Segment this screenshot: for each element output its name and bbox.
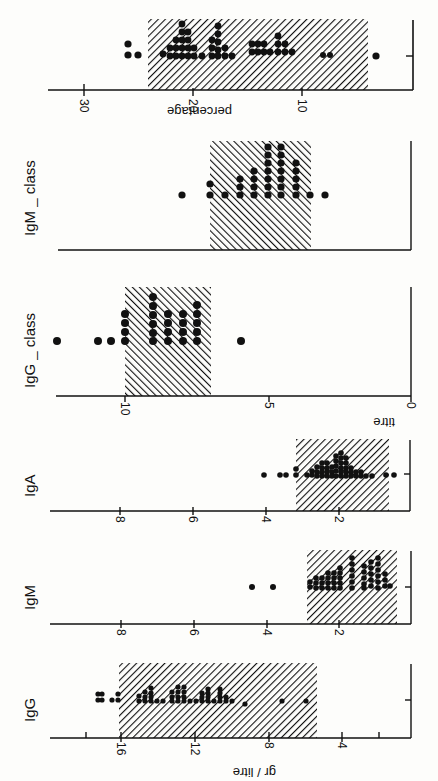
panel-igm: IgM 8 6 4 2	[21, 550, 411, 636]
figure-canvas: 30 20 10 percentage IgM _ class	[0, 0, 438, 781]
tick-label-2: 2	[332, 516, 346, 523]
panel-percentage: 30 20 10 percentage	[48, 19, 413, 119]
panel-igg: IgG 16 12 8 4 gr / litre	[21, 663, 411, 780]
panel-label-iga: IgA	[21, 474, 38, 497]
tick-label-6: 6	[187, 629, 201, 636]
tick-label-6: 6	[186, 516, 200, 523]
panel-igm-class: IgM _ class	[21, 141, 411, 250]
tick-label-4: 4	[260, 629, 274, 636]
tick-label-4: 4	[335, 742, 349, 749]
panel-label-igg-class: IgG _ class	[21, 313, 38, 388]
axis-title-percentage: percentage	[167, 104, 232, 119]
panel-igg-class: IgG _ class 10 5 0 titre	[21, 287, 418, 430]
tick-label-30: 30	[77, 99, 91, 113]
panel-iga: IgA 8 6 4 2	[21, 439, 410, 523]
tick-label-8: 8	[262, 742, 276, 749]
panel-label-igm-class: IgM _ class	[21, 160, 38, 236]
tick-label-10: 10	[295, 99, 309, 113]
panel-label-igm: IgM	[21, 585, 38, 610]
tick-label-10: 10	[118, 402, 132, 416]
tick-label-0: 0	[404, 402, 418, 409]
tick-label-8: 8	[113, 516, 127, 523]
tick-label-16: 16	[114, 742, 128, 756]
tick-label-2: 2	[332, 629, 346, 636]
tick-label-8: 8	[114, 629, 128, 636]
axis-title-gr-litre: gr / litre	[233, 765, 276, 780]
tick-label-4: 4	[259, 516, 273, 523]
tick-label-12: 12	[188, 742, 202, 756]
panel-label-igg: IgG	[21, 698, 38, 722]
tick-label-5: 5	[262, 402, 276, 409]
axis-title-titre: titre	[373, 415, 395, 430]
